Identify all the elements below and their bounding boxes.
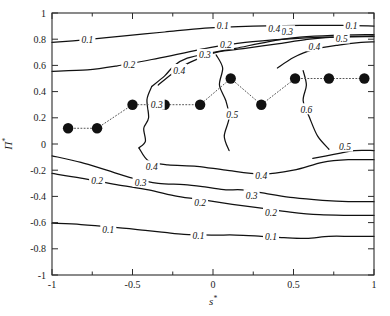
contour-label-0p1: 0.1 [346, 21, 358, 31]
y-tick-label: 0.2 [34, 112, 47, 123]
contour-label-0p5: 0.5 [226, 110, 238, 120]
data-point-marker [92, 123, 102, 133]
y-tick-label: -0.8 [30, 243, 46, 254]
contour-label-0p2: 0.2 [123, 60, 135, 70]
y-tick-label: 1 [41, 8, 46, 19]
contour-label-0p2: 0.2 [220, 40, 232, 50]
contour-label-0p1: 0.1 [81, 35, 93, 45]
contour-label-0p3: 0.3 [151, 100, 163, 110]
contour-label-0p4: 0.4 [146, 162, 158, 172]
y-tick-label: 0.4 [34, 86, 47, 97]
data-point-marker [290, 73, 300, 83]
contour-label-0p2: 0.2 [265, 208, 277, 218]
y-axis-title-superscript: * [1, 138, 10, 142]
contour-plot-figure: 0.10.10.10.20.20.30.30.30.40.40.40.50.50… [0, 0, 390, 316]
contour-plot-canvas: 0.10.10.10.20.20.30.30.30.40.40.40.50.50… [0, 0, 390, 316]
contour-label-0p3: 0.3 [246, 191, 258, 201]
contour-label-0p2: 0.2 [91, 176, 103, 186]
figure-background [0, 0, 390, 316]
contour-label-0p1: 0.1 [217, 21, 229, 31]
contour-label-0p2: 0.2 [194, 198, 206, 208]
x-axis-title-superscript: * [213, 294, 217, 303]
data-point-marker [63, 123, 73, 133]
y-tick-label: -0.4 [30, 191, 46, 202]
y-tick-label: -0.2 [30, 165, 46, 176]
data-point-marker [256, 100, 266, 110]
contour-label-0p1: 0.1 [193, 231, 205, 241]
y-tick-label: 0.8 [34, 34, 47, 45]
y-tick-label: -0.6 [30, 217, 46, 228]
x-tick-label: -0.5 [125, 279, 141, 290]
contour-label-0p1: 0.1 [265, 232, 277, 242]
data-point-marker [195, 100, 205, 110]
contour-label-0p4: 0.4 [255, 171, 267, 181]
data-point-marker [324, 73, 334, 83]
contour-label-0p4: 0.4 [268, 24, 280, 34]
contour-label-0p3: 0.3 [135, 178, 147, 188]
data-point-marker [359, 73, 369, 83]
contour-label-0p4: 0.4 [308, 42, 320, 52]
contour-label-0p5: 0.5 [339, 142, 351, 152]
x-tick-label: 0.5 [287, 279, 300, 290]
contour-label-0p6: 0.6 [300, 105, 312, 115]
contour-label-0p5: 0.5 [336, 34, 348, 44]
data-point-marker [127, 100, 137, 110]
y-tick-label: 0.6 [34, 60, 47, 71]
contour-label-0p1: 0.1 [102, 225, 114, 235]
y-tick-label: 0 [41, 139, 46, 150]
contour-label-0p3: 0.3 [281, 27, 293, 37]
x-tick-label: -1 [48, 279, 56, 290]
contour-label-0p3: 0.3 [199, 50, 211, 60]
y-tick-label: -1 [38, 270, 46, 281]
data-point-marker [226, 73, 236, 83]
x-tick-label: 1 [372, 279, 377, 290]
contour-label-0p4: 0.4 [173, 66, 185, 76]
x-tick-label: 0 [211, 279, 216, 290]
